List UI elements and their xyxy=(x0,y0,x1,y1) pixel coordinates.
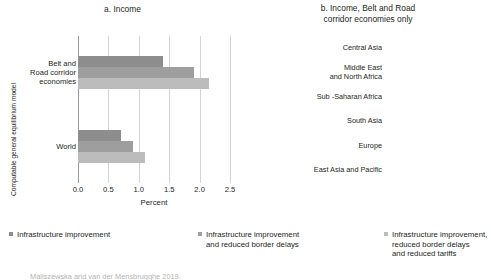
x-tick-label: 1.0 xyxy=(134,185,145,194)
x-tick-label: 1.5 xyxy=(164,185,175,194)
figure-source-note: Maliszewska and van der Mensbrugghe 2019… xyxy=(30,272,181,280)
category-label-middle-east-and-north-africa: Middle Eastand North Africa xyxy=(242,64,382,82)
bar xyxy=(78,141,133,152)
category-label-europe: Europe xyxy=(242,142,382,151)
panel-b-title: b. Income, Belt and Roadcorridor economi… xyxy=(245,3,491,24)
legend-swatch-infrastructure-improvement xyxy=(9,232,13,236)
category-label-belt-and-road-corridor-economies: Belt andRoad corridoreconomies xyxy=(0,59,76,87)
bar xyxy=(78,152,145,163)
panel-b-income-belt-and-road: b. Income, Belt and Roadcorridor economi… xyxy=(245,0,491,218)
gridline-1-5 xyxy=(169,36,170,183)
x-tick-label: 0.5 xyxy=(103,185,114,194)
x-tick-label: 2.5 xyxy=(225,185,236,194)
category-label-south-asia: South Asia xyxy=(242,117,382,126)
bar xyxy=(78,67,194,78)
bar xyxy=(78,130,121,141)
legend-label-2: Infrastructure improvement,reduced borde… xyxy=(392,230,491,259)
category-label-central-asia: Central Asia xyxy=(242,44,382,53)
gridline-2 xyxy=(200,36,201,183)
panel-a-y-axis-title: Computable general equilibrium model xyxy=(10,83,17,196)
legend-label-0: Infrastructure improvement xyxy=(17,230,189,240)
figure-income-belt-and-road: a. Income Computable general equilibrium… xyxy=(0,0,491,280)
panel-a-title: a. Income xyxy=(0,4,245,15)
gridline-2-5 xyxy=(230,36,231,183)
category-label-east-asia-and-pacific: East Asia and Pacific xyxy=(242,166,382,175)
legend-label-1: Infrastructure improvementand reduced bo… xyxy=(206,230,388,249)
bar xyxy=(78,56,163,67)
category-label-sub-saharan-africa: Sub -Saharan Africa xyxy=(242,93,382,102)
legend-item-infrastructure-and-border-delays: Infrastructure improvementand reduced bo… xyxy=(198,230,388,249)
x-tick-label: 0.0 xyxy=(73,185,84,194)
x-tick-label: 2.0 xyxy=(194,185,205,194)
panel-a-income: a. Income Computable general equilibrium… xyxy=(0,0,245,218)
bar xyxy=(78,78,209,89)
category-label-world: World xyxy=(0,142,76,151)
figure-legend: Infrastructure improvement Infrastructur… xyxy=(0,228,491,272)
legend-item-infrastructure-border-delays-tariffs: Infrastructure improvement,reduced borde… xyxy=(384,230,491,259)
legend-swatch-infrastructure-and-border-delays xyxy=(198,232,202,236)
legend-swatch-infrastructure-border-delays-tariffs xyxy=(384,232,388,236)
panel-a-x-axis-label: Percent xyxy=(78,198,230,207)
panel-a-x-tick-labels: 0.00.51.01.52.02.5 xyxy=(78,185,230,197)
legend-item-infrastructure-improvement: Infrastructure improvement xyxy=(9,230,189,240)
panel-a-plot-area xyxy=(78,36,230,183)
